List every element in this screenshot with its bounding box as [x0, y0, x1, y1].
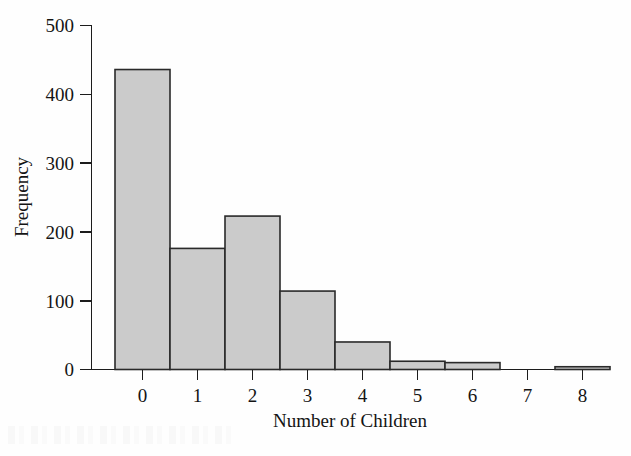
bar-4	[335, 342, 390, 370]
x-tick-label-7: 7	[523, 385, 533, 406]
bar-5	[390, 361, 445, 369]
x-tick-label-8: 8	[578, 385, 588, 406]
y-tick-label-500: 500	[46, 15, 75, 36]
y-tick-label-400: 400	[46, 84, 75, 105]
x-tick-label-1: 1	[193, 385, 203, 406]
y-axis-title: Frequency	[11, 156, 32, 237]
y-tick-label-200: 200	[46, 222, 75, 243]
x-axis-title: Number of Children	[273, 410, 428, 431]
y-tick-label-0: 0	[65, 359, 75, 380]
histogram-bars	[115, 70, 610, 370]
y-axis-tick-labels: 500 400 300 200 100 0	[46, 15, 75, 380]
bar-6	[445, 363, 500, 370]
x-tick-label-0: 0	[138, 385, 148, 406]
y-tick-label-100: 100	[46, 291, 75, 312]
x-axis-tick-labels: 0 1 2 3 4 5 6 7 8	[138, 385, 588, 406]
bar-8	[555, 367, 610, 370]
histogram-canvas: 500 400 300 200 100 0 Frequency	[0, 0, 631, 456]
bar-2	[225, 216, 280, 369]
bar-1	[170, 248, 225, 369]
bar-0	[115, 70, 170, 370]
bar-3	[280, 291, 335, 369]
y-axis-ticks	[80, 26, 92, 370]
x-tick-label-2: 2	[248, 385, 258, 406]
x-tick-label-5: 5	[413, 385, 423, 406]
x-tick-label-3: 3	[303, 385, 313, 406]
x-tick-label-4: 4	[358, 385, 368, 406]
histogram-figure: 500 400 300 200 100 0 Frequency	[0, 0, 631, 456]
y-tick-label-300: 300	[46, 153, 75, 174]
x-axis-ticks	[143, 370, 583, 381]
x-tick-label-6: 6	[468, 385, 478, 406]
